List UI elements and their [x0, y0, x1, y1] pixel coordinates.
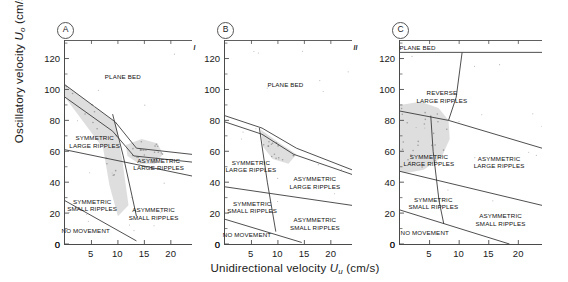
- field-label-symmetric-large-ripples: SYMMETRICLARGE RIPPLES: [67, 134, 123, 149]
- panel-badge-c: C: [392, 22, 409, 39]
- data-point: [84, 113, 86, 115]
- data-point: [98, 90, 99, 91]
- y-tick-label: 40: [36, 177, 60, 188]
- x-tick-label: 15: [134, 248, 154, 259]
- field-label-plane-bed: PLANE BED: [95, 73, 151, 80]
- data-point: [156, 144, 158, 146]
- x-tick-label: 10: [107, 248, 127, 259]
- data-point: [88, 221, 89, 222]
- data-point: [417, 145, 419, 147]
- data-point: [89, 172, 90, 173]
- data-point: [437, 113, 439, 115]
- data-point: [72, 93, 74, 95]
- data-point: [424, 123, 426, 125]
- data-point: [241, 138, 242, 139]
- y-tick-label: 100: [36, 84, 60, 95]
- data-point: [258, 52, 259, 53]
- field-label-symmetric-large-ripples: SYMMETRICLARGE RIPPLES: [401, 153, 457, 168]
- data-point: [302, 51, 303, 52]
- data-point: [458, 121, 459, 122]
- data-point: [536, 155, 537, 156]
- data-point: [77, 120, 78, 121]
- data-point: [253, 51, 254, 52]
- x-tick-label-zero: 0: [371, 239, 395, 250]
- x-tick-label: 5: [81, 248, 101, 259]
- y-tick-label: 60: [371, 146, 395, 157]
- data-point: [86, 214, 87, 215]
- y-axis-title-post: (cm/s): [13, 0, 25, 27]
- data-point: [243, 132, 244, 133]
- data-point: [401, 108, 403, 110]
- data-point: [412, 150, 414, 152]
- y-tick-label: 120: [371, 53, 395, 64]
- x-tick-label: 5: [241, 248, 261, 259]
- data-point: [433, 133, 435, 135]
- data-point: [133, 230, 134, 231]
- y-tick-label: 20: [196, 208, 220, 219]
- data-point: [268, 141, 270, 143]
- x-tick-label: 20: [321, 248, 341, 259]
- data-point: [140, 149, 142, 151]
- data-point: [144, 154, 146, 156]
- y-tick-label: 40: [196, 177, 220, 188]
- field-label-asymmetric-small-ripples: ASYMMETRICSMALL RIPPLES: [126, 206, 182, 221]
- field-label-asymmetric-small-ripples: ASYMMETRICSMALL RIPPLES: [287, 216, 343, 231]
- data-point: [282, 159, 284, 161]
- field-label-no-movement: NO MOVEMENT: [219, 231, 275, 238]
- x-tick-label: 15: [294, 248, 314, 259]
- data-point: [446, 128, 448, 130]
- data-point: [443, 149, 445, 151]
- field-label-plane-bed: PLANE BED: [390, 44, 446, 51]
- data-point: [334, 193, 335, 194]
- data-point: [115, 170, 117, 172]
- panel-badge-a: A: [57, 22, 74, 39]
- x-tick-label-zero: 0: [196, 239, 220, 250]
- data-point: [532, 113, 533, 114]
- y-axis-title: Oscillatory velocity Uo (cm/s): [13, 0, 27, 177]
- data-point: [492, 200, 493, 201]
- data-point: [274, 153, 276, 155]
- data-point: [447, 189, 448, 190]
- data-point: [348, 71, 349, 72]
- data-point: [153, 225, 154, 226]
- x-axis-title-post: (cm/s): [343, 262, 380, 274]
- y-tick-label: 80: [36, 115, 60, 126]
- reverse-asymmetric-divide: [449, 52, 463, 120]
- data-point: [94, 106, 95, 107]
- field-label-plane-bed: PLANE BED: [257, 81, 313, 88]
- data-point: [162, 153, 164, 155]
- data-point: [341, 169, 342, 170]
- data-point: [154, 151, 156, 153]
- data-point: [424, 112, 426, 114]
- data-point: [161, 152, 163, 154]
- data-point: [541, 126, 542, 127]
- x-tick-label: 15: [478, 248, 498, 259]
- data-point: [318, 164, 319, 165]
- x-tick-label: 10: [449, 248, 469, 259]
- x-tick-label: 10: [267, 248, 287, 259]
- data-point: [416, 127, 417, 128]
- data-point: [406, 122, 408, 124]
- x-tick-label-zero: 0: [36, 239, 60, 250]
- data-point: [131, 197, 132, 198]
- data-point: [96, 128, 98, 130]
- field-label-asymmetric-small-ripples: ASYMMETRICSMALL RIPPLES: [473, 212, 529, 227]
- y-tick-label: 120: [36, 53, 60, 64]
- field-label-reverse-large-ripples: REVERSELARGE RIPPLES: [414, 89, 470, 104]
- field-label-asymmetric-large-ripples: ASYMMETRICLARGE RIPPLES: [287, 175, 343, 190]
- y-tick-label: 100: [371, 84, 395, 95]
- data-point: [402, 141, 404, 143]
- data-point: [267, 145, 269, 147]
- data-point: [411, 56, 412, 57]
- field-label-asymmetric-large-ripples: ASYMMETRICLARGE RIPPLES: [131, 157, 187, 172]
- data-point: [263, 144, 265, 146]
- field-label-symmetric-large-ripples: SYMMETRICLARGE RIPPLES: [223, 159, 279, 174]
- data-point: [145, 150, 147, 152]
- data-point: [271, 156, 273, 158]
- x-axis-title-pre: Unidirectional velocity: [211, 262, 330, 274]
- combined-flow-phase-diagram-figure: Oscillatory velocity Uo (cm/s) Unidirect…: [0, 0, 568, 282]
- data-point: [437, 121, 439, 123]
- y-tick-label: 80: [371, 115, 395, 126]
- data-point: [481, 114, 482, 115]
- data-point: [129, 224, 130, 225]
